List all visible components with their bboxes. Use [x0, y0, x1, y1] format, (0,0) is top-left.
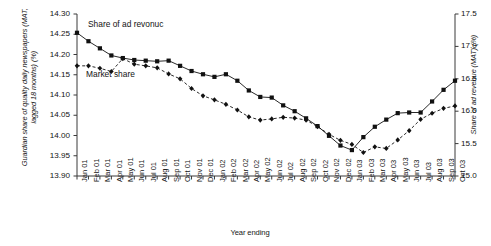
chart-figure: Guardian share of quality daily newspape…	[0, 0, 491, 246]
series-market-share	[75, 56, 458, 155]
series-ad-revenue	[75, 31, 457, 152]
plot-area	[0, 0, 491, 246]
